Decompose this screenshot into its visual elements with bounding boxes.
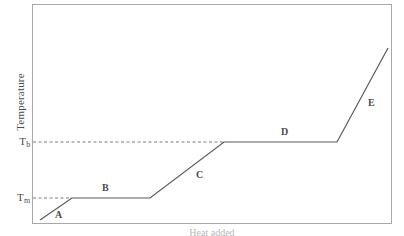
plot-frame [33, 5, 392, 224]
segment-label-e: E [368, 97, 375, 108]
y-tick-tb-main: T [19, 135, 26, 147]
segment-label-d: D [281, 126, 288, 137]
heating-curve-figure: Temperature Heat added Tb Tm A B C D E [0, 0, 404, 236]
heating-curve-plot [0, 0, 404, 236]
y-tick-tb-sub: b [26, 140, 30, 149]
segment-label-b: B [102, 182, 109, 193]
y-tick-label-boiling-point: Tb [2, 135, 30, 147]
y-tick-tm-sub: m [24, 196, 30, 205]
y-tick-tm-main: T [17, 191, 24, 203]
x-axis-title: Heat added [32, 227, 392, 236]
y-tick-label-melting-point: Tm [2, 191, 30, 203]
segment-label-c: C [196, 169, 203, 180]
segment-label-a: A [55, 209, 62, 220]
